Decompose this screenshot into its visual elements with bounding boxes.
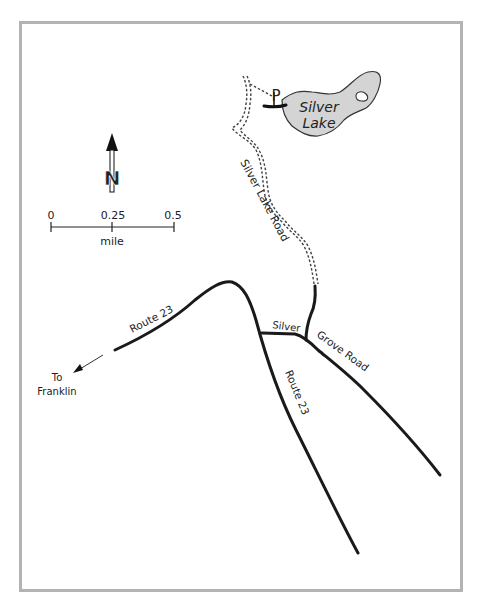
silver-lake-road-label: Silver Lake Road: [237, 157, 291, 244]
scale-bar: 0 0.25 0.5 mile: [48, 209, 182, 248]
direction-line2: Franklin: [37, 386, 76, 397]
lake-name-line1: Silver: [299, 99, 340, 115]
to-franklin: To Franklin: [37, 355, 103, 397]
map-canvas: Silver Lake P Silver Lake Road Route 23 …: [0, 0, 480, 609]
lake-name-line2: Lake: [302, 115, 335, 131]
north-arrow-icon: N: [104, 133, 121, 192]
silver-lake: Silver Lake: [282, 72, 381, 137]
north-label: N: [104, 166, 121, 190]
scale-tick-2: 0.5: [164, 209, 182, 222]
route-23: Route 23 Route 23: [115, 282, 358, 553]
arrow-icon: [73, 364, 83, 373]
scale-unit: mile: [100, 235, 124, 248]
lake-island: [356, 92, 368, 101]
grove-road-label: Grove Road: [315, 328, 371, 374]
direction-line1: To: [51, 372, 63, 383]
scale-tick-1: 0.25: [101, 209, 126, 222]
parking-label: P: [271, 87, 280, 105]
silver-label: Silver: [272, 319, 302, 334]
scale-tick-0: 0: [48, 209, 55, 222]
